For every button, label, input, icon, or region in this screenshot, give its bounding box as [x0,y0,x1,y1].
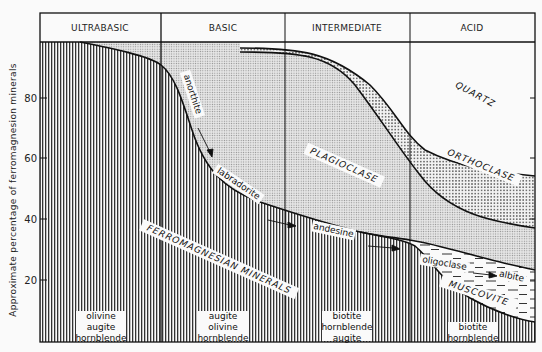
ytick-60: 60 [24,153,37,164]
mineral-augite: augite [209,311,238,321]
col4-minerals: biotite hornblende [447,322,499,343]
ytick-40: 40 [24,214,37,225]
y-axis-label: Approximate percentage of ferromagnesion… [8,63,18,316]
ytick-20: 20 [24,275,37,286]
mineral-hornblende: hornblende [75,333,127,343]
col1-minerals: olivine augite hornblende [75,311,127,343]
mineral-augite: augite [333,333,362,343]
mineral-olivine: olivine [208,322,238,332]
mineral-biotite: biotite [459,322,488,332]
mineral-hornblende: hornblende [447,333,499,343]
header-intermediate: INTERMEDIATE [312,23,382,33]
col3-minerals: biotite hornblende augite [321,311,373,343]
mineral-hornblende: hornblende [321,322,373,332]
header-basic: BASIC [209,23,237,33]
col2-minerals: augite olivine hornblende [197,311,249,343]
mineral-composition-diagram: ULTRABASIC BASIC INTERMEDIATE ACID 80 60… [0,0,542,352]
mineral-augite: augite [87,322,116,332]
mineral-hornblende: hornblende [197,333,249,343]
ytick-80: 80 [24,93,37,104]
mineral-biotite: biotite [333,311,362,321]
header-acid: ACID [460,23,483,33]
mineral-olivine: olivine [86,311,116,321]
header-ultrabasic: ULTRABASIC [71,23,129,33]
